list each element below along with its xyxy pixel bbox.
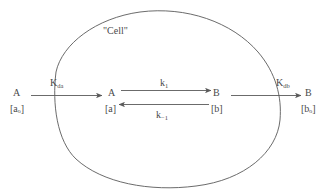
cell-kinetics-diagram: "Cell" A [aₒ] Kda A [a] k1 k−1 B [b] Kdb… [0, 0, 328, 193]
inside-right-concentration: [b] [211, 104, 223, 115]
efflux-rate-constant: Kdb [276, 78, 290, 89]
influx-rate-constant: Kda [50, 78, 63, 89]
forward-rate-subscript: 1 [165, 82, 168, 89]
inside-left-concentration: [a] [105, 104, 116, 115]
reverse-rate-constant: k−1 [156, 110, 168, 121]
outside-right-concentration: [bₒ] [301, 104, 316, 115]
forward-rate-constant: k1 [160, 78, 168, 89]
influx-rate-subscript: da [57, 82, 63, 89]
inside-right-species: B [213, 88, 220, 99]
cell-membrane-outline [55, 11, 281, 188]
cell-label: "Cell" [103, 26, 128, 37]
inside-left-species: A [108, 88, 115, 99]
outside-left-concentration: [aₒ] [10, 104, 24, 115]
efflux-rate-subscript: db [283, 82, 290, 89]
outside-left-species: A [13, 88, 20, 99]
outside-right-species: B [305, 88, 312, 99]
reverse-rate-subscript: −1 [161, 114, 168, 121]
diagram-canvas [0, 0, 328, 193]
